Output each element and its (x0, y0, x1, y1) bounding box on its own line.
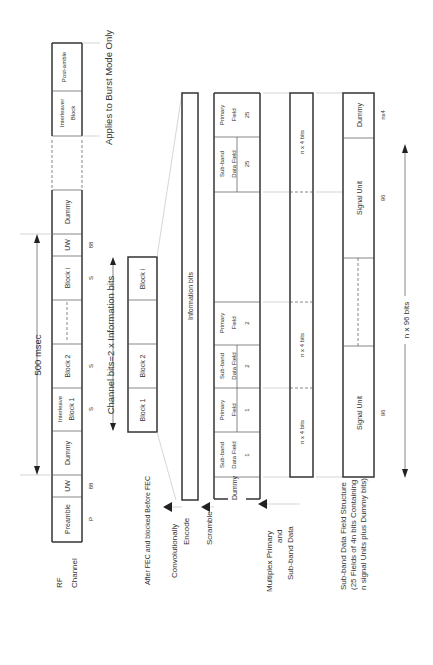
multiplex-seg-2: n x 4 bits (299, 333, 305, 357)
scramble-primary2-l3: 2 (244, 321, 250, 325)
scramble-label: Scramble (205, 511, 214, 545)
fec-block-1: Block 1 (139, 398, 146, 421)
fec-block-2: Block 2 (139, 354, 146, 377)
scramble-subband1-l3: 1 (244, 453, 250, 457)
scramble-subband2-l1: Sub-band (219, 353, 225, 379)
rf-field-preamble: Preamble (64, 504, 71, 534)
rf-field-block-i: Block i (64, 267, 71, 288)
scramble-primary1-l2: Field (231, 403, 237, 416)
multiplex-label-line2: and (275, 530, 284, 543)
multiplex-seg-1: n x 4 bits (299, 420, 305, 444)
multiplex-label-line3: Sub-band Data (286, 526, 295, 580)
rf-field-block2: Block 2 (64, 354, 71, 377)
arrow-left-icon (258, 499, 267, 509)
scramble-subband25-l2: Data Field (231, 150, 237, 177)
rf-field-dummy2: Dummy (64, 199, 72, 224)
fec-row: After FEC and blocked Before FEC Channel… (105, 257, 157, 585)
rf-field-interleaver-line1: Interleaver (59, 99, 65, 127)
dummy-bits: nx4 (380, 110, 386, 120)
scramble-subband1-l1: Sub-band (219, 442, 225, 468)
rf-field-uw2: UW (64, 239, 71, 251)
frame-structure-diagram: RF Channel Preamble UW Dummy Interleave … (0, 0, 433, 665)
rf-label-line2: Channel (70, 558, 79, 588)
multiplex-row: n x 4 bits n x 4 bits n x 4 bits Multipl… (258, 93, 313, 592)
duration-dimension: 500 msec (20, 234, 52, 475)
arrow-down-icon (402, 469, 408, 478)
multiplex-seg-3: n x 4 bits (299, 130, 305, 154)
scramble-primary25-l3: 25 (244, 111, 250, 118)
scramble-subband25-l3: 25 (244, 160, 250, 167)
rf-field-uw: UW (64, 480, 71, 492)
scramble-primary2-l2: Field (231, 316, 237, 329)
scramble-primary1-l1: Primary (219, 400, 225, 421)
scramble-primary25-l2: Field (231, 108, 237, 121)
scramble-primary1-l3: 1 (244, 408, 250, 412)
arrow-up-icon (34, 234, 40, 243)
rf-sub-s3: S (88, 276, 94, 280)
scramble-row: Scramble Dummy Sub-band Data Field 1 Pri… (201, 93, 260, 545)
rf-sub-882: 88 (88, 241, 94, 248)
rf-label-line1: RF (55, 577, 64, 588)
arrow-up-icon (402, 144, 408, 153)
scramble-subband2-l2: Data Field (231, 352, 237, 379)
encode-row: Information bits Convolutionally Encode (163, 93, 198, 578)
rf-sub-s2: S (88, 364, 94, 368)
rf-sub-p: P (88, 517, 94, 521)
scramble-subband1-l2: Data Field (231, 441, 237, 468)
arrow-down-icon (34, 466, 40, 475)
signal-unit-1: Signal Unit (356, 396, 364, 430)
encode-label-line1: Convolutionally (170, 524, 179, 578)
subband-label-line1: Sub-band Data Field Structure (339, 481, 348, 590)
arrow-down-icon (110, 423, 116, 431)
rf-field-interleave-line1: Interleave (57, 395, 63, 422)
arrow-left-icon (163, 502, 172, 512)
scramble-subband25-l1: Sub-band (219, 151, 225, 177)
fec-block-i: Block i (139, 268, 146, 289)
scramble-dummy: Dummy (231, 475, 239, 500)
subband-label-line2: (25 Fields of 4n bits Containing (349, 480, 358, 590)
signal-unit-1-bits: 96 (380, 409, 386, 416)
subband-dummy: Dummy (356, 102, 364, 127)
rf-field-dummy: Dummy (64, 440, 72, 465)
rf-sub-88: 88 (88, 482, 94, 489)
subband-row: Signal Unit Signal Unit Dummy 96 96 nx4 … (339, 93, 412, 590)
signal-unit-2: Signal Unit (356, 181, 364, 215)
scramble-subband2-l3: 2 (244, 364, 250, 368)
rf-field-interleave-line2: Block 1 (68, 397, 75, 420)
total-bits-label: n x 96 bits (402, 302, 411, 338)
information-bits: Information bits (187, 272, 194, 320)
fec-label: After FEC and blocked Before FEC (144, 476, 151, 585)
scramble-primary25-l1: Primary (219, 105, 225, 126)
encode-label-line2: Encode (182, 517, 191, 545)
rf-field-interleaver-line2: Block (70, 105, 76, 121)
arrow-left-icon (201, 502, 210, 512)
duration-label: 500 msec (32, 334, 43, 375)
arrow-up-icon (110, 257, 116, 265)
rf-field-postamble: Post-amble (61, 51, 67, 82)
subband-label-line3: n signal Units plus Dummy bits) (359, 478, 368, 590)
multiplex-label-line1: Multiplex Primary (265, 531, 274, 592)
scramble-primary2-l1: Primary (219, 313, 225, 334)
channel-bits-label: Channel bits=2 x Information bits (105, 275, 116, 414)
burst-mode-note: Applies to Burst Mode Only (103, 30, 114, 145)
signal-unit-2-bits: 96 (380, 194, 386, 201)
rf-sub-s1: S (88, 407, 94, 411)
